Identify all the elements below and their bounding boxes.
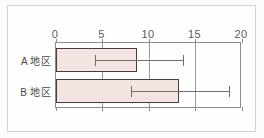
tick-mark <box>102 107 103 111</box>
tick-mark <box>149 39 150 43</box>
error-bar-cap <box>229 86 230 97</box>
chart-figure: 05101520 A 地区 B 地区 <box>0 0 264 138</box>
error-bar-cap <box>95 55 96 66</box>
tick-mark <box>242 39 243 43</box>
category-label-a: A 地区 <box>21 53 51 68</box>
tick-mark <box>195 39 196 43</box>
error-bar-line <box>131 91 229 92</box>
tick-mark <box>56 107 57 111</box>
tick-mark <box>56 39 57 43</box>
error-bar-cap <box>131 86 132 97</box>
gridline <box>195 43 196 109</box>
category-label-b: B 地区 <box>20 84 51 99</box>
plot-area <box>55 42 241 108</box>
tick-mark <box>195 107 196 111</box>
error-bar-cap <box>183 55 184 66</box>
tick-mark <box>102 39 103 43</box>
error-bar-line <box>95 60 183 61</box>
tick-mark <box>242 107 243 111</box>
tick-mark <box>149 107 150 111</box>
